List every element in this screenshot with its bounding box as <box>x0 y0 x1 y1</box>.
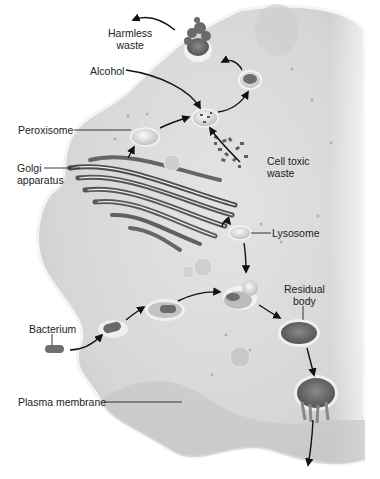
label-line: Harmless <box>108 27 152 39</box>
label-harmless-waste: Harmless waste <box>108 27 152 51</box>
label-plasma-membrane: Plasma membrane <box>18 396 106 408</box>
label-residual-body: Residual body <box>284 283 325 307</box>
label-alcohol: Alcohol <box>90 65 124 77</box>
label-peroxisome: Peroxisome <box>18 124 73 136</box>
bacterium <box>45 345 64 353</box>
active-peroxisome <box>192 109 218 127</box>
label-line: Cell toxic <box>267 155 310 167</box>
label-line: waste <box>108 39 152 51</box>
lysosome <box>229 226 251 240</box>
peroxisome <box>131 128 159 146</box>
label-golgi-apparatus: Golgi apparatus <box>17 162 64 186</box>
label-lysosome: Lysosome <box>272 227 319 239</box>
label-line: Golgi <box>17 162 64 174</box>
label-line: apparatus <box>17 174 64 186</box>
label-bacterium: Bacterium <box>29 323 76 335</box>
label-line: body <box>284 295 325 307</box>
label-line: waste <box>267 167 310 179</box>
label-line: Residual <box>284 283 325 295</box>
label-cell-toxic-waste: Cell toxic waste <box>267 155 310 179</box>
